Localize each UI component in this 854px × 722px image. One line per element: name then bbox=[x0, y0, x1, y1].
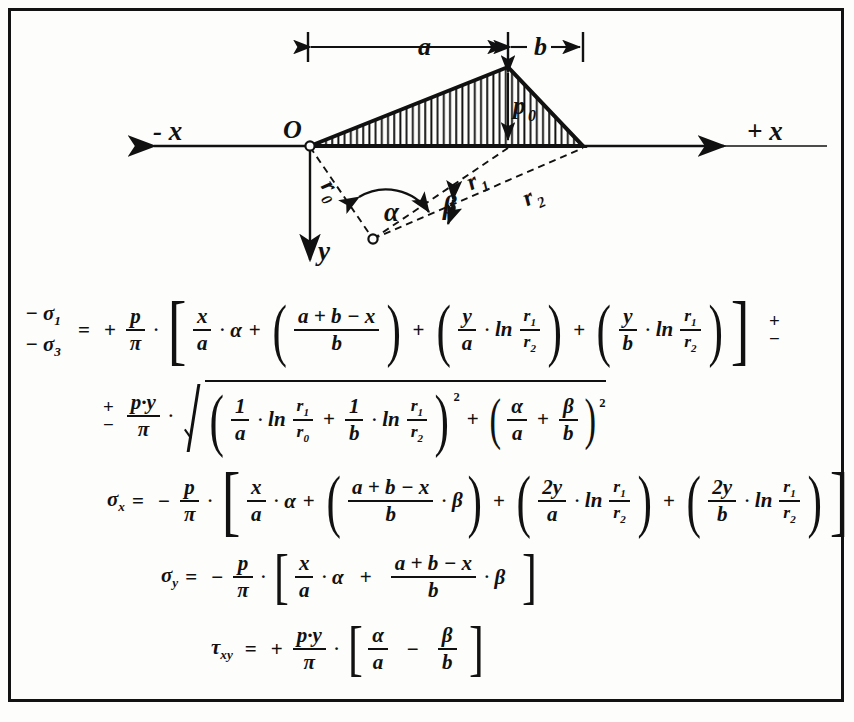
formula-tau-xy: τxy = + p·y π · [ α a − β bbox=[11, 613, 854, 685]
radical-sign-icon bbox=[183, 380, 205, 452]
formula-sigma-x: σx = − p π · [ x a · α + bbox=[11, 461, 854, 541]
dot-x5: · bbox=[744, 491, 750, 511]
alpha-symbol-x: α bbox=[284, 489, 296, 514]
formula-block: − σ1 − σ3 = + p π · [ x a · α bbox=[11, 289, 847, 701]
paren-group-x4: ( 2y b · ln r1 r2 ) bbox=[682, 469, 826, 533]
dot-y3: · bbox=[484, 567, 490, 587]
origin-label: O bbox=[283, 115, 302, 144]
term-beta-over-b-tau: β b bbox=[438, 624, 457, 673]
alpha-symbol-y: α bbox=[332, 565, 344, 590]
plus-r1: + bbox=[323, 407, 335, 432]
ln-operator-2: ln bbox=[656, 317, 674, 342]
lead-sign-y: − bbox=[211, 565, 223, 590]
dot-2: · bbox=[484, 320, 490, 340]
left-bracket-tau: [ bbox=[347, 621, 362, 677]
load-diagram: a b bbox=[21, 15, 837, 287]
dot-1: · bbox=[219, 320, 225, 340]
plus-2: + bbox=[413, 318, 425, 343]
term-a-plus-b-minus-x-over-b-y: a + b − x b bbox=[391, 552, 476, 601]
lead-sign-x: − bbox=[158, 489, 170, 514]
ln-operator-3: ln bbox=[268, 407, 286, 432]
right-bracket-x: ] bbox=[830, 466, 849, 536]
formula-sigma-y: σy = − p π · [ x a · α + bbox=[11, 541, 854, 613]
formula-lhs-sigma-stack: − σ1 − σ3 bbox=[25, 299, 61, 361]
plus-x1: + bbox=[303, 489, 315, 514]
plus-minus-lead: + − bbox=[103, 399, 114, 432]
dimension-line-group: a b bbox=[308, 32, 583, 62]
lead-sign: + bbox=[104, 318, 116, 343]
radical-contents: ( 1 a · ln r1 r0 bbox=[205, 380, 606, 452]
dot-radical: · bbox=[168, 406, 174, 426]
dot-x2: · bbox=[274, 491, 280, 511]
formula-sigma-1-3: − σ1 − σ3 = + p π · [ x a · α bbox=[11, 289, 854, 371]
right-bracket-y: ] bbox=[522, 549, 537, 605]
axis-label-y: y bbox=[315, 236, 331, 266]
term-r1-over-r2-x1: r1 r2 bbox=[609, 477, 629, 524]
paren-group-2: ( a + b − x b ) bbox=[268, 298, 406, 362]
equals-sign: = bbox=[78, 318, 90, 343]
ln-operator-4: ln bbox=[382, 407, 400, 432]
dot-tau1: · bbox=[334, 639, 340, 659]
term-1-over-b: 1 b bbox=[345, 395, 364, 444]
load-label: p bbox=[511, 92, 526, 119]
beta-symbol-x: β bbox=[452, 488, 463, 513]
plus-minus-trailing: + − bbox=[769, 313, 780, 346]
coefficient-p-over-pi-y: p π bbox=[233, 552, 252, 601]
angle-alpha-label: α bbox=[384, 197, 400, 227]
term-y-over-a: y a bbox=[458, 305, 477, 354]
left-bracket: [ bbox=[168, 295, 187, 365]
term-r1-over-r0: r1 r0 bbox=[293, 396, 313, 443]
field-point-node bbox=[368, 234, 377, 243]
plus-radical: + bbox=[467, 407, 479, 432]
minus-tau: − bbox=[407, 637, 419, 662]
triangular-load-area bbox=[310, 67, 583, 146]
coefficient-p-over-pi-x: p π bbox=[180, 476, 199, 525]
dot-r1: · bbox=[257, 410, 263, 430]
term-beta-over-b-rad: β b bbox=[559, 395, 578, 444]
ln-operator-x2: ln bbox=[755, 488, 773, 513]
radical-paren-1: ( 1 a · ln r1 r0 bbox=[205, 388, 460, 452]
term-r1-over-r2-b: r1 r2 bbox=[680, 306, 700, 353]
plus-1: + bbox=[249, 318, 261, 343]
axis-label-negative-x: - x bbox=[153, 116, 182, 146]
figure-frame: a b bbox=[8, 8, 844, 702]
lead-sign-tau: + bbox=[271, 637, 283, 662]
paren-group-4: ( y b · ln r1 r2 ) bbox=[592, 298, 727, 362]
equals-sign-tau: = bbox=[245, 637, 257, 662]
radius-r0-label-group: r 0 bbox=[312, 174, 348, 207]
term-x-over-a: x a bbox=[193, 305, 212, 354]
exponent-2-second: 2 bbox=[599, 396, 605, 411]
multiplication-dot: · bbox=[153, 320, 159, 340]
term-2y-over-a: 2y a bbox=[538, 476, 566, 525]
alpha-symbol: α bbox=[230, 318, 242, 343]
term-2y-over-b: 2y b bbox=[708, 476, 736, 525]
beta-symbol-y: β bbox=[495, 565, 506, 590]
radius-r2-label-group: r 2 bbox=[518, 179, 548, 215]
lhs-sigma1: − σ1 bbox=[25, 299, 61, 330]
term-a-plus-b-minus-x-over-b: a + b − x b bbox=[294, 305, 379, 354]
exponent-2-first: 2 bbox=[453, 390, 459, 405]
term-x-over-a-y: x a bbox=[295, 552, 314, 601]
plus-y1: + bbox=[360, 565, 372, 590]
term-r1-over-r2-a: r1 r2 bbox=[520, 306, 540, 353]
plus-x3: + bbox=[663, 489, 675, 514]
equals-sign-x: = bbox=[132, 489, 144, 514]
term-a-plus-b-minus-x-over-b-x: a + b − x b bbox=[348, 476, 433, 525]
term-y-over-b: y b bbox=[619, 305, 638, 354]
term-alpha-over-a-tau: α a bbox=[368, 624, 388, 673]
dot-y2: · bbox=[321, 567, 327, 587]
dot-3: · bbox=[645, 320, 651, 340]
dot-y1: · bbox=[261, 567, 267, 587]
left-bracket-x: [ bbox=[222, 466, 241, 536]
paren-group-x2: ( a + b − x b · β ) bbox=[322, 469, 486, 533]
equals-sign-y: = bbox=[185, 565, 197, 590]
formula-radical-term: + − p·y π · ( 1 bbox=[11, 371, 854, 461]
origin-node bbox=[305, 141, 314, 150]
right-bracket-tau: ] bbox=[468, 621, 483, 677]
lhs-tau-xy: τxy bbox=[211, 635, 233, 663]
coefficient-py-over-pi: p·y π bbox=[127, 391, 160, 440]
term-r1-over-r2-x2: r1 r2 bbox=[779, 477, 799, 524]
paren-group-x3: ( 2y a · ln r1 r2 ) bbox=[512, 469, 656, 533]
plus-3: + bbox=[573, 318, 585, 343]
term-r1-over-r2-rad: r1 r2 bbox=[407, 396, 427, 443]
